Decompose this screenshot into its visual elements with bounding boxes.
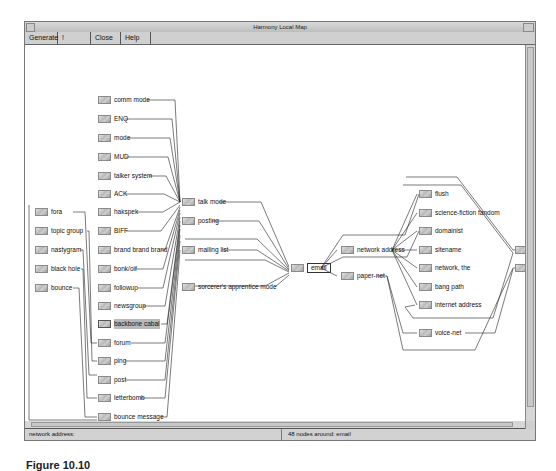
graph-node-label[interactable]: hakspek (114, 207, 138, 217)
document-node-icon[interactable] (419, 190, 432, 198)
document-node-icon[interactable] (35, 227, 48, 235)
document-node-icon[interactable] (98, 394, 111, 402)
document-node-icon[interactable] (98, 246, 111, 254)
graph-node-label[interactable]: email (307, 263, 331, 273)
graph-node[interactable]: paper-net (341, 271, 385, 281)
graph-node[interactable]: mode (98, 133, 130, 143)
graph-node-label[interactable]: network, the (435, 263, 470, 273)
graph-node-label[interactable]: brand brand brand (114, 245, 168, 255)
graph-node[interactable]: post (98, 375, 126, 385)
document-node-icon[interactable] (98, 208, 111, 216)
graph-node[interactable]: bang path (419, 282, 464, 292)
horizontal-scrollbar[interactable] (25, 421, 525, 429)
vertical-scroll-thumb[interactable] (527, 47, 534, 407)
graph-node[interactable]: comm mode (98, 95, 150, 105)
graph-node[interactable]: sorcerer's apprentice mode (182, 282, 277, 292)
graph-node-label[interactable]: talker system (114, 171, 152, 181)
graph-node-label[interactable]: mode (114, 133, 130, 143)
graph-node[interactable]: voice-net (419, 328, 461, 338)
graph-node[interactable]: sitename (419, 245, 461, 255)
graph-node[interactable]: topic group (35, 226, 83, 236)
graph-node[interactable]: science-fiction fandom (419, 208, 500, 218)
graph-node[interactable]: internet address (419, 300, 482, 310)
document-node-icon[interactable] (98, 284, 111, 292)
document-node-icon[interactable] (291, 264, 304, 272)
graph-node[interactable]: brand brand brand (98, 245, 168, 255)
document-node-icon[interactable] (419, 209, 432, 217)
graph-node-label[interactable]: posting (198, 216, 219, 226)
document-node-icon[interactable] (98, 413, 111, 421)
graph-node[interactable]: newsgroup (98, 301, 146, 311)
graph-node-label[interactable]: fora (51, 207, 62, 217)
document-node-icon[interactable] (419, 301, 432, 309)
graph-node[interactable]: black hole (35, 264, 80, 274)
document-node-icon[interactable] (98, 339, 111, 347)
window-menu-button[interactable] (26, 23, 35, 32)
graph-node-label[interactable]: MUD (114, 152, 129, 162)
document-node-icon[interactable] (35, 284, 48, 292)
graph-node-label[interactable]: internet address (435, 300, 482, 310)
graph-node-label[interactable]: ENQ (114, 114, 128, 124)
vertical-scrollbar[interactable] (525, 45, 535, 421)
graph-node-label[interactable]: forum (114, 338, 131, 348)
document-node-icon[interactable] (182, 246, 195, 254)
document-node-icon[interactable] (419, 227, 432, 235)
graph-node-label[interactable]: post (114, 375, 126, 385)
graph-node[interactable]: forum (98, 338, 131, 348)
graph-node[interactable]: network, the (419, 263, 470, 273)
document-node-icon[interactable] (419, 264, 432, 272)
graph-node-label[interactable]: newsgroup (114, 301, 146, 311)
graph-node-label[interactable]: network address (357, 245, 405, 255)
graph-node[interactable]: bonk/oif (98, 264, 137, 274)
graph-node-label[interactable]: mailing list (198, 245, 228, 255)
document-node-icon[interactable] (341, 272, 354, 280)
graph-node-label[interactable]: ACK (114, 189, 127, 199)
graph-node[interactable]: fora (35, 207, 62, 217)
graph-node-label[interactable]: talk mode (198, 197, 226, 207)
graph-node[interactable]: talker system (98, 171, 152, 181)
graph-node[interactable]: followup (98, 283, 138, 293)
graph-node[interactable]: flush (419, 189, 449, 199)
document-node-icon[interactable] (35, 265, 48, 273)
document-node-icon[interactable] (98, 96, 111, 104)
graph-node[interactable]: network address (341, 245, 405, 255)
menu-generate[interactable]: Generate (25, 32, 58, 44)
document-node-icon[interactable] (341, 246, 354, 254)
graph-node-label[interactable]: backbone cabal (114, 319, 160, 329)
document-node-icon[interactable] (98, 302, 111, 310)
document-node-icon[interactable] (98, 376, 111, 384)
graph-node-label[interactable]: science-fiction fandom (435, 208, 500, 218)
document-node-icon[interactable] (98, 190, 111, 198)
graph-node[interactable]: bounce (35, 283, 72, 293)
graph-node[interactable]: domainist (419, 226, 463, 236)
graph-node[interactable]: MUD (98, 152, 129, 162)
graph-node[interactable]: nastygram (35, 245, 81, 255)
graph-node-label[interactable]: BIFF (114, 226, 128, 236)
document-node-icon[interactable] (182, 217, 195, 225)
graph-node[interactable]: email (291, 263, 331, 273)
graph-node[interactable]: backbone cabal (98, 319, 160, 329)
graph-node-label[interactable]: letterbomb (114, 393, 145, 403)
graph-node[interactable]: BIFF (98, 226, 128, 236)
graph-node[interactable]: ACK (98, 189, 127, 199)
document-node-icon[interactable] (98, 265, 111, 273)
graph-node-label[interactable]: black hole (51, 264, 80, 274)
document-node-icon[interactable] (98, 357, 111, 365)
graph-node[interactable]: ping (98, 356, 126, 366)
menu-options[interactable]: ! Options (58, 32, 91, 44)
document-node-icon[interactable] (419, 246, 432, 254)
graph-node-label[interactable]: sorcerer's apprentice mode (198, 282, 277, 292)
document-node-icon[interactable] (98, 134, 111, 142)
document-node-icon[interactable] (98, 320, 111, 328)
document-node-icon[interactable] (35, 246, 48, 254)
graph-node-label[interactable]: voice-net (435, 328, 461, 338)
document-node-icon[interactable] (515, 264, 525, 272)
horizontal-scroll-thumb[interactable] (31, 422, 513, 427)
graph-node-label[interactable]: paper-net (357, 271, 385, 281)
graph-node[interactable]: letterbomb (98, 393, 145, 403)
graph-node-label[interactable]: domainist (435, 226, 463, 236)
graph-node-label[interactable]: flush (435, 189, 449, 199)
graph-node[interactable]: talk mode (182, 197, 226, 207)
graph-node-label[interactable]: topic group (51, 226, 83, 236)
graph-node-label[interactable]: followup (114, 283, 138, 293)
